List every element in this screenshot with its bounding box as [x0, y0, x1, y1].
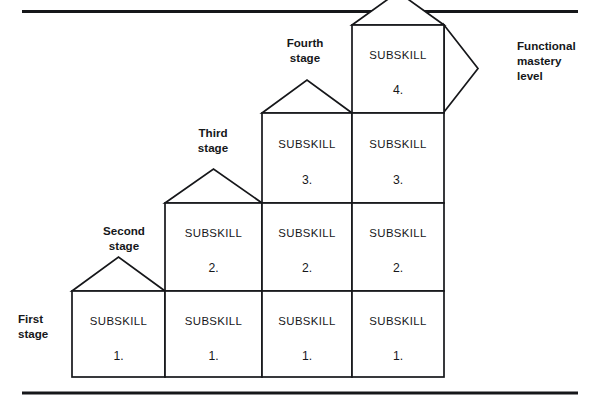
column-3-roof	[262, 80, 352, 113]
outcome-label-line3: level	[517, 69, 543, 82]
column-2-cell-2[interactable]: SUBSKILL 2.	[165, 203, 262, 291]
column-4-cell-3-box[interactable]	[352, 113, 444, 203]
mastery-arrowhead-icon	[444, 25, 478, 112]
column-2-cell-2-number: 2.	[208, 261, 218, 275]
column-4-cell-2-title: SUBSKILL	[369, 227, 426, 239]
column-3-cell-2-number: 2.	[302, 261, 312, 275]
column-4-cell-1-box[interactable]	[352, 291, 444, 377]
outcome-label-line1: Functional	[517, 39, 576, 52]
column-4-cell-3[interactable]: SUBSKILL 3.	[352, 113, 444, 203]
column-3-cell-2[interactable]: SUBSKILL 2.	[262, 203, 352, 291]
stage-label-third-line1: Third	[199, 126, 228, 139]
column-2-cell-2-box[interactable]	[165, 203, 262, 291]
stage-label-fourth-line2: stage	[290, 51, 321, 64]
column-4-cell-2-number: 2.	[393, 261, 403, 275]
column-4-cell-3-number: 3.	[393, 173, 403, 187]
column-3-cell-1-box[interactable]	[262, 291, 352, 377]
column-2-cell-1-number: 1.	[208, 349, 218, 363]
column-2-cell-1[interactable]: SUBSKILL 1.	[165, 291, 262, 377]
column-1-cell-1[interactable]: SUBSKILL 1.	[72, 291, 165, 377]
stage-label-first-line2: stage	[18, 327, 49, 340]
column-2-cell-1-title: SUBSKILL	[185, 315, 242, 327]
stage-label-fourth-line1: Fourth	[287, 36, 324, 49]
figure-canvas: SUBSKILL 1. First stage SUBSKILL 2. SUBS…	[0, 0, 599, 405]
column-3-cell-1-title: SUBSKILL	[278, 315, 335, 327]
column-3-cell-3-title: SUBSKILL	[278, 138, 335, 150]
column-1-cell-1-box[interactable]	[72, 291, 165, 377]
column-3-cell-3-box[interactable]	[262, 113, 352, 203]
column-4-cell-1-number: 1.	[393, 349, 403, 363]
column-3-cell-3-number: 3.	[302, 173, 312, 187]
column-1: SUBSKILL 1. First stage	[18, 257, 165, 377]
column-2-cell-1-box[interactable]	[165, 291, 262, 377]
outcome-label: Functional mastery level	[517, 39, 576, 82]
column-4-cell-2[interactable]: SUBSKILL 2.	[352, 203, 444, 291]
column-4-cell-4[interactable]: SUBSKILL 4.	[352, 25, 444, 113]
stage-label-first-line1: First	[18, 312, 43, 325]
column-4-cell-1-title: SUBSKILL	[369, 315, 426, 327]
column-4-cell-4-number: 4.	[393, 83, 403, 97]
column-1-cell-1-title: SUBSKILL	[90, 315, 147, 327]
column-3-cell-3[interactable]: SUBSKILL 3.	[262, 113, 352, 203]
stage-label-third-line2: stage	[198, 141, 229, 154]
stage-label-second-line1: Second	[103, 224, 145, 237]
column-4-cell-3-title: SUBSKILL	[369, 138, 426, 150]
column-4-cell-2-box[interactable]	[352, 203, 444, 291]
column-3-cell-2-box[interactable]	[262, 203, 352, 291]
staircase-diagram: SUBSKILL 1. First stage SUBSKILL 2. SUBS…	[0, 0, 599, 405]
column-2-roof	[165, 169, 262, 203]
column-1-roof	[72, 257, 165, 291]
column-3-cell-2-title: SUBSKILL	[278, 227, 335, 239]
outcome-label-line2: mastery	[517, 54, 562, 67]
column-3-cell-1-number: 1.	[302, 349, 312, 363]
column-2-cell-2-title: SUBSKILL	[185, 227, 242, 239]
stage-label-second-line2: stage	[109, 239, 140, 252]
column-1-cell-1-number: 1.	[113, 349, 123, 363]
column-4-cell-4-title: SUBSKILL	[369, 49, 426, 61]
column-4-cell-4-box[interactable]	[352, 25, 444, 113]
column-4-cell-1[interactable]: SUBSKILL 1.	[352, 291, 444, 377]
column-3-cell-1[interactable]: SUBSKILL 1.	[262, 291, 352, 377]
